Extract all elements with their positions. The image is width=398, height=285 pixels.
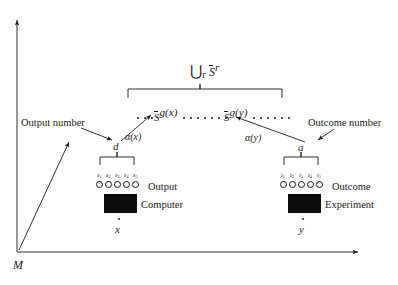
alpha-y-label: α(y) [245, 133, 261, 143]
output-label: Output [148, 182, 177, 193]
figure-canvas: M ⋃rSr Sg(x) Sg(y) Output number Outcome… [0, 0, 398, 285]
d-symbol-label: d [113, 141, 119, 152]
outcome-brace [284, 152, 318, 165]
output-bit-label: s1 [97, 172, 102, 179]
set-dot [137, 117, 139, 119]
computer-input-dot [118, 218, 120, 220]
set-gy-base: S [224, 112, 230, 123]
set-label-gx: Sg(x) [154, 107, 178, 124]
output-circle [132, 181, 139, 188]
outcome-number-arrow [318, 129, 334, 140]
set-dot [151, 117, 153, 119]
set-gx-superscript: g(x) [160, 106, 178, 118]
outcome-number-label: Outcome number [308, 118, 381, 129]
experiment-label: Experiment [325, 200, 374, 211]
set-gx-base: S [154, 112, 160, 123]
output-bit-label: s3 [115, 172, 120, 179]
set-dot [267, 117, 269, 119]
union-brace [128, 84, 282, 98]
outcome-circle [289, 181, 296, 188]
outcome-bit-label: t4 [308, 172, 312, 179]
outcome-bit-label: t3 [299, 172, 303, 179]
diagram-vector-layer [0, 0, 398, 285]
set-gy-superscript: g(y) [230, 106, 248, 118]
outcome-circle [280, 181, 287, 188]
output-bit-label: s2 [106, 172, 111, 179]
y-input-label: y [299, 224, 304, 235]
alpha-x-label: α(x) [125, 132, 141, 142]
output-number-label: Output number [21, 118, 85, 129]
output-bit-label: s4 [124, 172, 129, 179]
origin-diagonal-arrow [19, 142, 69, 250]
output-brace [100, 152, 134, 165]
set-dot [190, 117, 192, 119]
set-dot [260, 117, 262, 119]
set-dot [281, 117, 283, 119]
set-dot [204, 117, 206, 119]
experiment-input-dot [302, 218, 304, 220]
set-dot [197, 117, 199, 119]
output-number-arrow [81, 128, 112, 140]
a-symbol-label: a [298, 142, 304, 153]
union-superscript: r [215, 61, 219, 73]
set-dot [183, 117, 185, 119]
union-expression: ⋃rSr [190, 62, 219, 80]
output-circle [123, 181, 130, 188]
outcome-label: Outcome [332, 182, 371, 193]
outcome-bit-label: t5 [317, 172, 321, 179]
outcome-bit-label: t2 [290, 172, 294, 179]
computer-box [104, 194, 137, 213]
computer-label: Computer [141, 200, 183, 211]
origin-label-M: M [13, 259, 23, 271]
union-set-base: S [209, 66, 215, 78]
outcome-circle [316, 181, 323, 188]
outcome-circle [307, 181, 314, 188]
union-subscript: r [202, 68, 206, 80]
set-label-gy: Sg(y) [224, 107, 248, 124]
outcome-bit-label: t1 [281, 172, 285, 179]
set-dot [144, 117, 146, 119]
outcome-circle [298, 181, 305, 188]
experiment-box [288, 194, 321, 213]
set-dot [288, 117, 290, 119]
output-circle [114, 181, 121, 188]
output-circle [96, 181, 103, 188]
set-dot [253, 117, 255, 119]
set-dot [211, 117, 213, 119]
output-circle [105, 181, 112, 188]
output-bit-label: s5 [133, 172, 138, 179]
x-input-label: x [115, 224, 120, 235]
set-dot [274, 117, 276, 119]
union-symbol: ⋃ [190, 62, 202, 80]
set-dot [218, 117, 220, 119]
